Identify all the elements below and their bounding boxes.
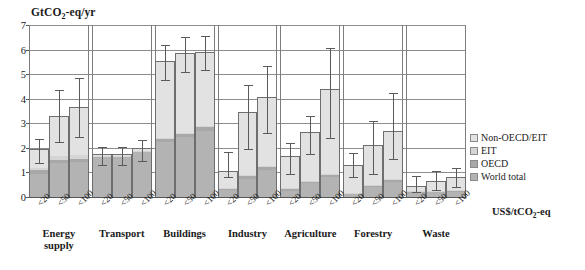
error-bar: [436, 171, 437, 189]
bar[interactable]: [132, 25, 152, 197]
error-bar-cap-upper: [389, 93, 398, 94]
error-bar-cap-upper: [349, 153, 358, 154]
bar-segment: [426, 191, 446, 192]
error-bar-cap-lower: [452, 187, 461, 188]
bar-segment: [383, 179, 403, 180]
error-bar-cap-lower: [326, 138, 335, 139]
bar[interactable]: [112, 25, 132, 197]
bar-segment: [155, 139, 175, 142]
error-bar: [310, 116, 311, 154]
error-bar: [122, 147, 123, 165]
x-axis-group-label: Forestry: [337, 228, 409, 240]
bar-segment: [320, 174, 340, 175]
legend-item[interactable]: OECD: [470, 157, 547, 170]
error-bar-cap-lower: [201, 70, 210, 71]
bar-segment: [195, 126, 215, 127]
error-bar: [165, 45, 166, 81]
error-bar: [228, 152, 229, 178]
error-bar: [456, 168, 457, 188]
bar-segment: [155, 138, 175, 139]
error-bar-cap-lower: [35, 163, 44, 164]
error-bar-cap-upper: [432, 171, 441, 172]
error-bar-cap-upper: [98, 147, 107, 148]
error-bar-cap-upper: [161, 45, 170, 46]
bar-segment: [69, 159, 89, 162]
legend-item[interactable]: EIT: [470, 144, 547, 157]
error-bar-cap-lower: [389, 159, 398, 160]
error-bar-cap-upper: [181, 37, 190, 38]
chart-root: GtCO2-eq/yr 01234567 <20<50<100Energysup…: [0, 0, 585, 270]
error-bar: [59, 90, 60, 142]
bar-segment: [257, 167, 277, 170]
error-bar-cap-lower: [349, 177, 358, 178]
error-bar: [248, 85, 249, 149]
error-bar-cap-upper: [412, 176, 421, 177]
legend-label: Non-OECD/EIT: [481, 132, 547, 143]
y-axis-tick-label: 7: [4, 20, 26, 31]
error-bar-cap-lower: [75, 137, 84, 138]
x-axis-group-label: Transport: [86, 228, 158, 240]
bar-segment: [280, 189, 300, 190]
x-axis-group-label: Buildings: [149, 228, 221, 240]
error-bar-cap-lower: [118, 165, 127, 166]
bar[interactable]: [92, 25, 112, 197]
error-bar: [267, 66, 268, 134]
x-axis-group-label: Energysupply: [23, 228, 95, 251]
bar-segment: [257, 166, 277, 167]
error-bar: [142, 140, 143, 161]
bar-segment: [49, 160, 69, 163]
error-bar-cap-upper: [369, 121, 378, 122]
bar[interactable]: [300, 25, 320, 197]
error-bar: [393, 93, 394, 159]
bar[interactable]: [29, 25, 49, 197]
error-bar-cap-upper: [224, 152, 233, 153]
bar-segment: [69, 155, 89, 159]
legend-label: EIT: [481, 145, 497, 156]
legend-swatch: [470, 160, 478, 168]
y-axis-title: GtCO2-eq/yr: [31, 6, 96, 21]
error-bar-cap-upper: [326, 48, 335, 49]
error-bar: [353, 153, 354, 178]
bar-segment: [29, 168, 49, 170]
bar-segment: [195, 131, 215, 197]
error-bar-cap-lower: [55, 142, 64, 143]
legend-item[interactable]: World total: [470, 170, 547, 183]
bar-segment: [320, 175, 340, 177]
legend-label: World total: [481, 171, 526, 182]
bar-segment: [49, 156, 69, 160]
bar-segment: [155, 142, 175, 197]
error-bar: [185, 37, 186, 71]
error-bar: [79, 78, 80, 137]
error-bar-cap-upper: [138, 140, 147, 141]
bar-segment: [175, 133, 195, 134]
bar-segment: [300, 181, 320, 182]
error-bar-cap-upper: [306, 116, 315, 117]
y-axis-tick-label: 4: [4, 93, 26, 104]
y-axis-tick-label: 2: [4, 142, 26, 153]
x-axis-group-label: Industry: [212, 228, 284, 240]
bar[interactable]: [406, 25, 426, 197]
error-bar-cap-lower: [98, 165, 107, 166]
error-bar-cap-upper: [201, 36, 210, 37]
x-axis-group-label: Agriculture: [274, 228, 346, 240]
x-axis-group-label-line: Buildings: [149, 228, 221, 240]
error-bar-cap-lower: [286, 174, 295, 175]
error-bar-cap-upper: [286, 143, 295, 144]
legend-swatch: [470, 147, 478, 155]
bar-segment: [195, 127, 215, 131]
legend-swatch: [470, 173, 478, 181]
bar-segment: [29, 170, 49, 174]
y-axis-tick-label: 1: [4, 167, 26, 178]
bar-segment: [300, 182, 320, 184]
legend-item[interactable]: Non-OECD/EIT: [470, 131, 547, 144]
plot-area: [29, 25, 466, 197]
error-bar: [290, 143, 291, 174]
bar-segment: [383, 180, 403, 182]
legend: Non-OECD/EITEITOECDWorld total: [470, 131, 547, 183]
error-bar-cap-upper: [118, 147, 127, 148]
x-axis-group-label: Waste: [400, 228, 472, 240]
error-bar-cap-lower: [263, 133, 272, 134]
x-axis-group-label-line: Industry: [212, 228, 284, 240]
error-bar: [373, 121, 374, 174]
error-bar-cap-upper: [35, 139, 44, 140]
